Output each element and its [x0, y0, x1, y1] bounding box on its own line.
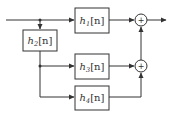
summer-1: + [135, 14, 147, 26]
svg-text:+: + [138, 62, 145, 71]
h4-to-sum2 [109, 73, 141, 97]
block-h4: h4[n] [75, 86, 109, 110]
summer-2: + [135, 60, 147, 72]
block-h1: h1[n] [75, 8, 109, 33]
block-diagram: h2[n] h1[n] h3[n] h4[n] + + [0, 0, 174, 117]
svg-text:+: + [138, 16, 145, 25]
block-h2: h2[n] [23, 30, 57, 51]
block-h3: h3[n] [75, 54, 109, 79]
